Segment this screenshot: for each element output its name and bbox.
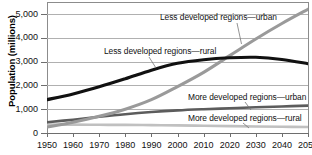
callout-leader-line: [149, 57, 156, 68]
callout-more-developed-rural: More developed regions—rural: [188, 113, 302, 123]
series-line: [47, 125, 308, 127]
callout-leader-line: [237, 23, 242, 44]
callout-less-developed-rural: Less developed regions—rural: [104, 46, 216, 56]
callout-less-developed-urban: Less developed regions—urban: [160, 12, 277, 22]
callout-more-developed-urban: More developed regions—urban: [188, 92, 306, 102]
population-line-chart: Population (millions) 01,0002,0003,0004,…: [0, 0, 312, 155]
series-layer: [0, 0, 312, 155]
